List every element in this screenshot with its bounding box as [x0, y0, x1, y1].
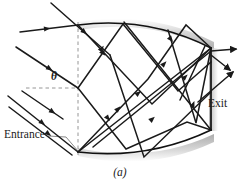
arrowhead-int-7 [148, 115, 156, 123]
exit-label: Exit [208, 98, 227, 110]
internal-ray-path-4 [78, 88, 211, 149]
figure-caption: (a) [0, 167, 240, 179]
incoming-ray-2 [51, 3, 110, 55]
incoming-ray-6 [22, 91, 63, 119]
internal-rays [78, 22, 211, 157]
incoming-arrowheads [38, 26, 88, 138]
internal-ray-path-6 [78, 48, 211, 152]
ray-diagram-figure: Entrance Exit θ (a) [0, 0, 240, 187]
arrowhead-int-5 [114, 105, 122, 113]
internal-ray-path-10 [93, 51, 211, 147]
entrance-label: Entrance [4, 129, 45, 141]
angle-theta-label: θ [51, 71, 57, 83]
arrowhead-in-1 [44, 26, 51, 32]
surface-shadows [78, 19, 218, 162]
ray-diagram-canvas [0, 0, 240, 187]
slab-surfaces [78, 23, 211, 154]
